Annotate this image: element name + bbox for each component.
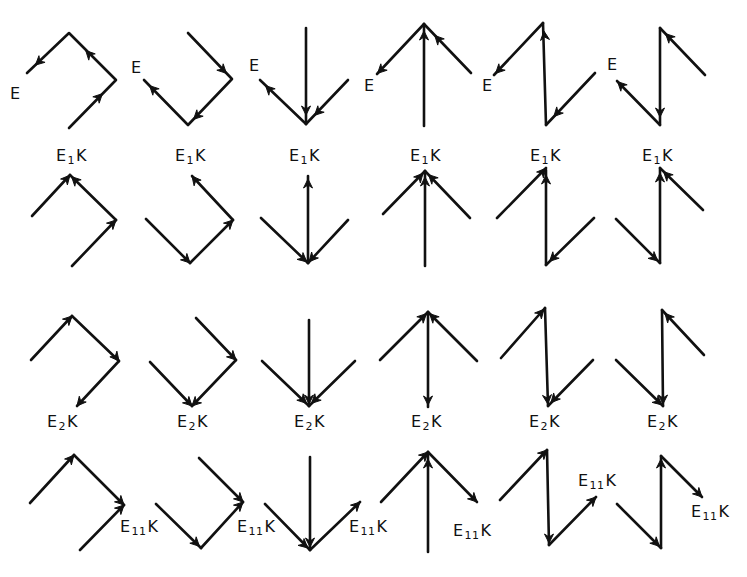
- line-segment: [196, 318, 236, 360]
- label-subscript: 2: [659, 420, 667, 433]
- diagram-label: E11K: [578, 473, 617, 491]
- diagram-label: E2K: [177, 414, 208, 432]
- line-segment: [72, 220, 116, 266]
- diagram-row-E2K-4: [380, 312, 477, 407]
- diagram-label: E1K: [410, 148, 441, 166]
- diagram-label: E2K: [647, 414, 678, 432]
- label-k: K: [481, 521, 492, 540]
- label-e: E: [56, 146, 67, 165]
- label-subscript: 2: [541, 420, 549, 433]
- line-segment: [549, 497, 596, 545]
- line-segment: [547, 450, 549, 545]
- label-subscript: 2: [59, 420, 67, 433]
- diagram-row-E-1: [27, 33, 116, 128]
- label-subscript: 1: [187, 154, 195, 167]
- diagram-label: E: [364, 78, 375, 94]
- label-k: K: [662, 146, 673, 165]
- label-e: E: [289, 146, 300, 165]
- line-segment: [72, 316, 119, 361]
- diagram-row-E2K-5: [501, 308, 593, 406]
- diagram-row-E2K-2: [150, 318, 236, 406]
- line-segment: [617, 504, 661, 548]
- line-segment: [156, 504, 201, 548]
- diagram-row-E1K-5: [497, 168, 594, 265]
- diagram-label: E11K: [349, 519, 388, 537]
- line-segment: [190, 220, 233, 263]
- label-e: E: [453, 521, 464, 540]
- line-segment: [306, 80, 348, 124]
- line-segment: [497, 168, 546, 218]
- label-subscript: 2: [306, 420, 314, 433]
- diagram-row-E11K-1: [30, 455, 124, 550]
- label-k: K: [550, 146, 561, 165]
- diagram-figure: EEEEEEE1KE1KE1KE1KE1KE1KE2KE2KE2KE2KE2KE…: [0, 0, 747, 577]
- label-k: K: [265, 517, 276, 536]
- line-segment: [380, 312, 428, 360]
- line-segment: [199, 458, 243, 502]
- label-k: K: [667, 412, 678, 431]
- label-e: E: [578, 471, 589, 490]
- diagram-label: E2K: [47, 414, 78, 432]
- label-e: E: [647, 412, 658, 431]
- label-e: E: [410, 146, 421, 165]
- diagram-row-E1K-2: [146, 176, 233, 263]
- label-subscript: 11: [590, 479, 605, 492]
- label-subscript: 1: [542, 154, 550, 167]
- label-e: E: [237, 517, 248, 536]
- label-k: K: [309, 146, 320, 165]
- label-k: K: [67, 412, 78, 431]
- line-segment: [261, 218, 308, 263]
- diagram-row-E11K-5: [500, 450, 596, 545]
- line-segment: [27, 33, 116, 128]
- line-segment: [192, 360, 236, 406]
- label-e: E: [411, 412, 422, 431]
- line-segment: [80, 505, 124, 550]
- diagram-label: E: [10, 86, 21, 102]
- label-subscript: 11: [361, 525, 376, 538]
- label-subscript: 1: [68, 154, 76, 167]
- diagram-label: E11K: [691, 504, 730, 522]
- line-segment: [501, 308, 545, 358]
- label-subscript: 11: [132, 525, 147, 538]
- label-subscript: 1: [301, 154, 309, 167]
- line-segment: [31, 316, 72, 360]
- line-segment: [545, 308, 548, 406]
- line-segment: [494, 23, 543, 75]
- diagram-label: E1K: [175, 148, 206, 166]
- label-k: K: [606, 471, 617, 490]
- line-segment: [381, 452, 428, 502]
- label-k: K: [377, 517, 388, 536]
- diagram-row-E-6: [617, 28, 705, 125]
- diagram-label: E11K: [120, 519, 159, 537]
- label-e: E: [177, 412, 188, 431]
- label-e: E: [529, 412, 540, 431]
- label-k: K: [314, 412, 325, 431]
- label-subscript: 2: [423, 420, 431, 433]
- diagram-row-E-5: [494, 23, 595, 125]
- line-segment: [500, 450, 547, 500]
- line-segment: [377, 24, 424, 74]
- diagram-label: E1K: [642, 148, 673, 166]
- diagram-row-E2K-6: [616, 310, 704, 406]
- label-e: E: [691, 502, 702, 521]
- diagram-row-E11K-3: [265, 457, 360, 550]
- line-segment: [662, 310, 663, 406]
- label-k: K: [719, 502, 730, 521]
- line-segment: [70, 175, 116, 220]
- diagram-label: E2K: [529, 414, 560, 432]
- label-subscript: 1: [654, 154, 662, 167]
- diagram-row-E1K-4: [383, 171, 470, 266]
- label-k: K: [430, 146, 441, 165]
- label-k: K: [197, 412, 208, 431]
- line-segment: [77, 361, 119, 406]
- line-segment: [144, 33, 232, 125]
- line-segment: [308, 220, 348, 263]
- line-segment: [74, 455, 124, 505]
- diagram-row-E1K-1: [32, 175, 116, 266]
- diagram-row-E-3: [260, 28, 348, 124]
- diagram-label: E1K: [56, 148, 87, 166]
- line-segment: [30, 455, 74, 503]
- line-segment: [424, 24, 471, 73]
- diagram-row-E1K-3: [261, 176, 348, 263]
- diagram-row-E11K-6: [617, 456, 702, 548]
